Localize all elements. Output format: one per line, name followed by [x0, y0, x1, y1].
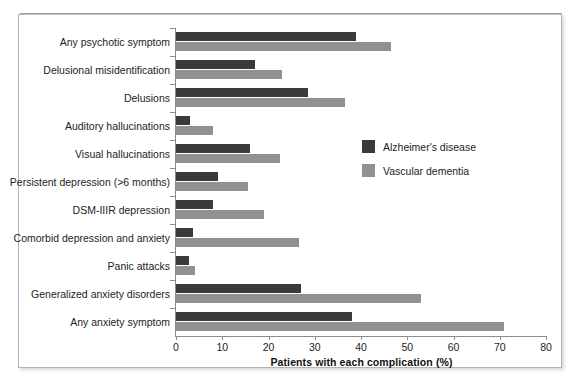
x-axis-tick [454, 336, 455, 340]
x-axis-tick-label: 40 [355, 341, 367, 353]
bar-alzheimers [176, 284, 301, 293]
x-axis-tick-label: 70 [494, 341, 506, 353]
x-axis-title: Patients with each complication (%) [176, 356, 547, 368]
bar-alzheimers [176, 144, 250, 153]
category-label-text: Comorbid depression and anxiety [14, 232, 170, 244]
legend-item: Alzheimer's disease [362, 137, 476, 156]
bar-group: DSM-IIIR depression [0, 196, 580, 224]
category-label: Comorbid depression and anxiety [0, 224, 170, 252]
y-axis-tick [170, 28, 175, 29]
bar-group: Generalized anxiety disorders [0, 280, 580, 308]
bar-alzheimers [176, 60, 255, 69]
bar-alzheimers [176, 32, 356, 41]
bar-group: Delusional misidentification [0, 56, 580, 84]
bar-vascular [176, 266, 195, 275]
category-label: Delusions [0, 84, 170, 112]
bar-group: Auditory hallucinations [0, 112, 580, 140]
chart-plot-area: Any psychotic symptomDelusional misident… [0, 0, 580, 381]
category-label: Auditory hallucinations [0, 112, 170, 140]
x-axis-tick-label: 0 [173, 341, 179, 353]
x-axis-tick-label: 20 [263, 341, 275, 353]
bar-vascular [176, 210, 264, 219]
x-axis-tick-label: 80 [540, 341, 552, 353]
bar-group: Comorbid depression and anxiety [0, 224, 580, 252]
bar-alzheimers [176, 200, 213, 209]
y-axis-tick [170, 280, 175, 281]
x-axis-tick [176, 336, 177, 340]
y-axis-tick [170, 84, 175, 85]
x-axis-tick-label: 10 [216, 341, 228, 353]
x-axis-tick-label: 50 [401, 341, 413, 353]
legend-swatch-vascular [362, 164, 375, 177]
figure-container: Any psychotic symptomDelusional misident… [0, 0, 580, 381]
category-label-text: Panic attacks [108, 260, 170, 272]
bar-vascular [176, 294, 421, 303]
x-axis-tick-label: 30 [309, 341, 321, 353]
bar-pair [176, 252, 556, 280]
category-label: Panic attacks [0, 252, 170, 280]
category-label-text: Delusions [124, 92, 170, 104]
legend-swatch-alzheimers [362, 140, 375, 153]
y-axis-tick [170, 308, 175, 309]
bar-alzheimers [176, 312, 352, 321]
bar-alzheimers [176, 88, 308, 97]
category-label: Any anxiety symptom [0, 308, 170, 336]
category-label-text: Auditory hallucinations [65, 120, 170, 132]
bar-group: Persistent depression (>6 months) [0, 168, 580, 196]
bar-alzheimers [176, 228, 193, 237]
bar-pair [176, 112, 556, 140]
y-axis-tick [170, 112, 175, 113]
x-axis-tick-label: 60 [448, 341, 460, 353]
x-axis-tick [500, 336, 501, 340]
category-label: Visual hallucinations [0, 140, 170, 168]
category-label-text: DSM-IIIR depression [73, 204, 170, 216]
bar-pair [176, 84, 556, 112]
category-label-text: Visual hallucinations [75, 148, 170, 160]
bar-group: Delusions [0, 84, 580, 112]
category-label-text: Delusional misidentification [43, 64, 170, 76]
chart-legend: Alzheimer's diseaseVascular dementia [362, 137, 476, 185]
x-axis-tick [361, 336, 362, 340]
bar-vascular [176, 154, 280, 163]
category-label: Delusional misidentification [0, 56, 170, 84]
bar-group: Any psychotic symptom [0, 28, 580, 56]
y-axis-tick [170, 140, 175, 141]
category-label: DSM-IIIR depression [0, 196, 170, 224]
bar-vascular [176, 42, 391, 51]
category-label: Persistent depression (>6 months) [0, 168, 170, 196]
bar-group: Any anxiety symptom [0, 308, 580, 336]
bar-vascular [176, 98, 345, 107]
bar-vascular [176, 126, 213, 135]
bar-vascular [176, 238, 299, 247]
category-label: Generalized anxiety disorders [0, 280, 170, 308]
legend-item: Vascular dementia [362, 161, 476, 180]
y-axis-tick [170, 56, 175, 57]
bar-pair [176, 224, 556, 252]
bar-vascular [176, 182, 248, 191]
y-axis-tick [170, 168, 175, 169]
bar-pair [176, 308, 556, 336]
y-axis-tick [170, 224, 175, 225]
bar-group: Panic attacks [0, 252, 580, 280]
category-label-text: Any psychotic symptom [60, 36, 170, 48]
bar-group: Visual hallucinations [0, 140, 580, 168]
bar-vascular [176, 322, 504, 331]
legend-label: Vascular dementia [383, 165, 469, 177]
bar-vascular [176, 70, 282, 79]
x-axis-tick [315, 336, 316, 340]
x-axis-tick [546, 336, 547, 340]
legend-label: Alzheimer's disease [383, 141, 476, 153]
bar-alzheimers [176, 116, 190, 125]
bar-pair [176, 280, 556, 308]
category-label-text: Any anxiety symptom [70, 316, 170, 328]
y-axis-tick [170, 196, 175, 197]
category-label: Any psychotic symptom [0, 28, 170, 56]
bar-alzheimers [176, 256, 189, 265]
category-label-text: Generalized anxiety disorders [31, 288, 170, 300]
x-axis-tick [407, 336, 408, 340]
bar-pair [176, 56, 556, 84]
y-axis-tick [170, 252, 175, 253]
bar-pair [176, 28, 556, 56]
bar-pair [176, 196, 556, 224]
x-axis-tick [222, 336, 223, 340]
